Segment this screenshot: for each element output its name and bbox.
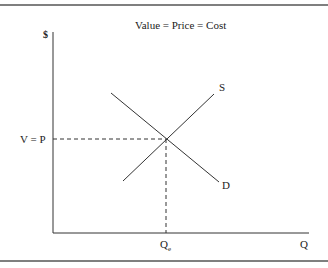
quantity-symbol: Q — [160, 238, 168, 250]
x-axis-label: Q — [300, 239, 308, 250]
demand-label: D — [222, 180, 230, 191]
y-axis-label: $ — [43, 30, 48, 40]
quantity-subscript: e — [168, 245, 171, 253]
supply-label: S — [219, 82, 225, 93]
supply-curve — [123, 94, 214, 181]
equilibrium-quantity-label: Qe — [160, 239, 171, 253]
diagram-title: Value = Price = Cost — [135, 20, 226, 31]
supply-demand-diagram — [0, 0, 328, 268]
demand-curve — [111, 93, 219, 182]
equilibrium-price-label: V = P — [20, 134, 46, 145]
